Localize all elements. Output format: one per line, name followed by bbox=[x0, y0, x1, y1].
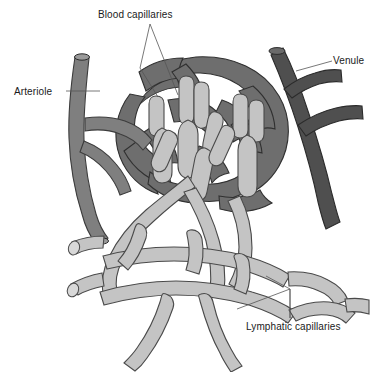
label-blood-capillaries: Blood capillaries bbox=[98, 9, 173, 21]
label-venule: Venule bbox=[333, 55, 364, 67]
label-arteriole: Arteriole bbox=[14, 86, 52, 98]
label-lymphatic-capillaries: Lymphatic capillaries bbox=[246, 321, 341, 333]
leader-venule bbox=[296, 61, 332, 71]
vessel-illustration: .art { fill:#7f7f7f; stroke:#3c3c3c; str… bbox=[0, 0, 386, 372]
capillary-bed-diagram: .art { fill:#7f7f7f; stroke:#3c3c3c; str… bbox=[0, 0, 386, 372]
